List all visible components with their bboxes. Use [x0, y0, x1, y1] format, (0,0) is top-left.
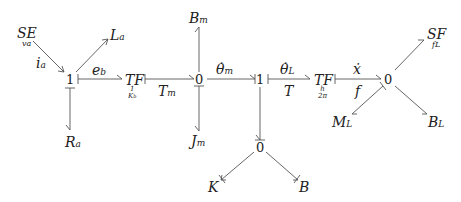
node-ra: Ra [65, 135, 81, 149]
bond-0-k [221, 152, 254, 180]
node-b: B [299, 180, 309, 194]
node-tf1: TF [125, 73, 144, 87]
node-sf-param: fL [432, 41, 440, 49]
bond-label-theta-m: θ̇m [216, 62, 233, 76]
tf1-ratio: 1Kb [128, 86, 136, 100]
bonds-layer [0, 0, 461, 202]
node-ml: ML [332, 115, 352, 129]
node-sf: SF [427, 27, 446, 41]
node-zero-junction-m: 0 [195, 73, 203, 86]
node-jm: Jm [191, 134, 205, 148]
tf2-ratio: h2π [318, 86, 327, 100]
node-bm: Bm [189, 11, 208, 25]
half-arrow-icon [195, 27, 199, 32]
node-se-param: va [22, 40, 31, 48]
half-arrow-icon [117, 75, 122, 79]
half-arrow-icon [66, 125, 70, 130]
bond-label-t: T [284, 84, 293, 98]
bond-graph-diagram: SE va La 1 Ra TF 1Kb 0 Bm Jm 1 0 K B TF … [0, 0, 461, 202]
bond-label-xdot: ẋ [353, 62, 361, 76]
bond-0-b [266, 152, 298, 180]
bond-0-bl [395, 86, 427, 114]
node-one-junction-b: 1 [256, 73, 264, 86]
node-bl: BL [428, 115, 444, 129]
bond-0-sf [395, 40, 424, 70]
bond-label-ia: ia [36, 56, 46, 70]
node-zero-junction-l: 0 [384, 73, 392, 86]
bond-label-theta-l: θ̇L [280, 62, 294, 76]
half-arrow-icon [305, 75, 310, 79]
node-zero-junction-k: 0 [256, 141, 264, 154]
bond-label-eb: eb [92, 63, 106, 77]
half-arrow-icon [376, 75, 381, 79]
bond-label-tm: Tm [158, 84, 176, 98]
half-arrow-icon [250, 75, 255, 79]
node-one-junction-a: 1 [66, 73, 74, 86]
half-arrow-icon [189, 75, 194, 79]
node-k: K [208, 180, 218, 194]
bond-label-f: f [355, 84, 360, 98]
half-arrow-icon [195, 126, 199, 131]
node-la: La [110, 28, 125, 42]
node-se: SE [17, 26, 37, 40]
